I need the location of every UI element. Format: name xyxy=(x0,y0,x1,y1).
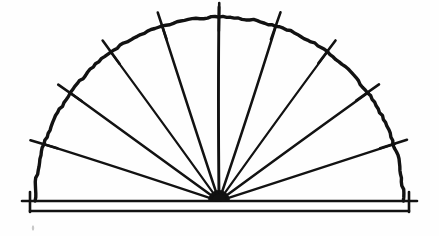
angle-tick-36 xyxy=(356,84,379,100)
spokes-layer xyxy=(43,7,395,200)
radial-spoke-54 xyxy=(220,51,328,199)
radial-spoke-36 xyxy=(221,92,369,200)
protractor-drawing xyxy=(0,0,439,236)
scan-speck xyxy=(32,225,34,230)
radial-spoke-18 xyxy=(221,144,395,201)
scan-artifact-layer xyxy=(32,225,34,230)
angle-tick-54 xyxy=(318,40,335,63)
radial-spoke-162 xyxy=(43,144,217,201)
figure-canvas xyxy=(0,0,439,236)
radial-spoke-72 xyxy=(220,25,277,199)
angle-tick-144 xyxy=(58,85,81,101)
radial-spoke-90 xyxy=(218,7,219,199)
radial-spoke-144 xyxy=(69,92,217,200)
radial-spoke-126 xyxy=(110,51,218,199)
radial-spoke-108 xyxy=(162,25,219,199)
angle-tick-126 xyxy=(103,41,120,64)
